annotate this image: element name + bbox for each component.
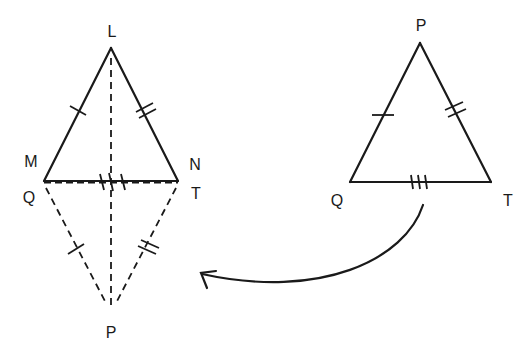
label-N: N [189,156,201,173]
right-figure: P Q T [331,17,513,209]
tick-QT-3 [425,175,427,189]
label-T-right: T [503,192,513,209]
side-LM [44,48,111,181]
tick-TP-2 [141,240,159,248]
side-QP-dashed [46,188,107,305]
tick-QT-1 [411,175,413,189]
label-Q-right: Q [331,192,343,209]
congruent-triangles-diagram: L M N Q T P P Q T [0,0,531,357]
side-TP-dashed [115,188,176,305]
tick-QT-2 [418,175,420,189]
arrow-head [201,271,216,288]
side-PT [420,43,491,182]
arrow-curve [202,205,423,282]
tick-TP-1 [138,246,156,254]
side-PQ [350,43,420,182]
label-P-right: P [416,17,427,34]
label-T-left: T [191,185,201,202]
label-L: L [108,23,117,40]
label-M: M [24,153,37,170]
left-figure: L M N Q T P [23,23,201,341]
curved-arrow-icon [201,205,423,288]
label-P-left: P [106,324,117,341]
label-Q-left: Q [23,189,35,206]
